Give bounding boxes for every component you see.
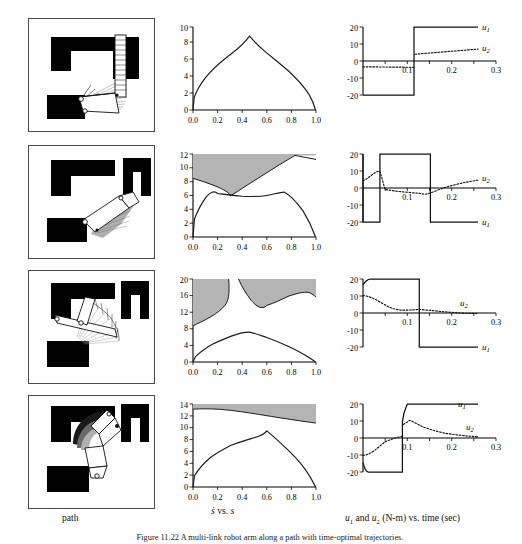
- svg-text:-10: -10: [347, 202, 358, 211]
- svg-text:10: 10: [180, 163, 188, 172]
- controls-plot-row-3: 2010 0-10 -20 0.10.20.3: [336, 270, 511, 388]
- sdot-plot-row-3: 04 812 1620 0.00.2 0.4: [166, 270, 326, 388]
- svg-text:6: 6: [184, 55, 188, 64]
- svg-text:4: 4: [184, 459, 188, 468]
- svg-text:u1: u1: [482, 217, 490, 228]
- figure-row-4: 02 46 810 1214: [0, 395, 522, 520]
- svg-text:0.0: 0.0: [188, 368, 198, 377]
- svg-text:6: 6: [184, 447, 188, 456]
- svg-text:0.0: 0.0: [188, 243, 198, 252]
- path-panel-row-1: [28, 18, 155, 132]
- svg-text:u1: u1: [482, 342, 490, 353]
- svg-text:0.2: 0.2: [447, 66, 457, 75]
- svg-text:0: 0: [184, 106, 188, 115]
- svg-text:0.6: 0.6: [262, 116, 272, 125]
- sdot-plot-row-2: 02 46 810 12: [166, 145, 326, 263]
- svg-text:0.2: 0.2: [212, 368, 222, 377]
- svg-text:0.3: 0.3: [491, 66, 501, 75]
- svg-text:-20: -20: [347, 469, 358, 478]
- svg-text:0.1: 0.1: [402, 443, 412, 452]
- svg-text:1.0: 1.0: [311, 368, 321, 377]
- svg-text:2: 2: [184, 219, 188, 228]
- sdot-plot-row-1: 02 46 810 0.00.2 0.40.: [166, 18, 326, 136]
- svg-text:0.8: 0.8: [286, 368, 296, 377]
- svg-text:0.6: 0.6: [262, 243, 272, 252]
- svg-text:-10: -10: [347, 327, 358, 336]
- controls-plot-row-1: 2010 0-10 -20 0.10.20.3: [336, 18, 511, 136]
- svg-text:0.4: 0.4: [237, 493, 247, 502]
- svg-text:0: 0: [354, 185, 358, 194]
- svg-text:1.0: 1.0: [311, 493, 321, 502]
- column-caption-sdot: ṡ vs. s: [211, 505, 234, 516]
- svg-text:20: 20: [350, 401, 358, 410]
- svg-text:u1: u1: [482, 22, 490, 33]
- path-panel-row-3: [28, 270, 155, 384]
- svg-text:0.3: 0.3: [491, 318, 501, 327]
- column-caption-controls: u1 and u2 (N-m) vs. time (sec): [345, 512, 460, 525]
- svg-text:0.3: 0.3: [491, 193, 501, 202]
- column-caption-path: path: [62, 512, 79, 523]
- svg-text:2: 2: [184, 471, 188, 480]
- figure-row-1: 02 46 810 0.00.2 0.40.: [0, 18, 522, 143]
- svg-text:4: 4: [184, 341, 188, 350]
- svg-text:1.0: 1.0: [311, 116, 321, 125]
- svg-text:0.0: 0.0: [188, 493, 198, 502]
- sdot-plot-row-4: 02 46 810 1214: [166, 395, 326, 513]
- svg-text:4: 4: [184, 205, 188, 214]
- svg-text:10: 10: [350, 168, 358, 177]
- svg-text:0: 0: [184, 483, 188, 492]
- svg-text:0.4: 0.4: [237, 243, 247, 252]
- svg-text:0: 0: [354, 435, 358, 444]
- svg-text:2: 2: [184, 89, 188, 98]
- svg-text:-10: -10: [347, 75, 358, 84]
- svg-text:-10: -10: [347, 452, 358, 461]
- svg-text:8: 8: [184, 177, 188, 186]
- svg-text:8: 8: [184, 435, 188, 444]
- svg-text:0: 0: [354, 310, 358, 319]
- svg-text:0.6: 0.6: [262, 493, 272, 502]
- svg-text:0.2: 0.2: [447, 318, 457, 327]
- svg-text:10: 10: [180, 24, 188, 33]
- svg-text:10: 10: [180, 423, 188, 432]
- path-panel-row-2: [28, 145, 155, 259]
- svg-text:0: 0: [184, 233, 188, 242]
- svg-text:1.0: 1.0: [311, 243, 321, 252]
- svg-text:0.1: 0.1: [402, 193, 412, 202]
- svg-text:12: 12: [180, 412, 188, 421]
- svg-text:0.8: 0.8: [286, 116, 296, 125]
- svg-text:0.4: 0.4: [237, 368, 247, 377]
- svg-text:4: 4: [184, 72, 188, 81]
- svg-text:20: 20: [180, 276, 188, 285]
- figure-row-3: 04 812 1620 0.00.2 0.4: [0, 270, 522, 395]
- svg-text:20: 20: [350, 24, 358, 33]
- svg-text:20: 20: [350, 276, 358, 285]
- controls-plot-row-4: 2010 0-10 -20 0.10.20.3: [336, 395, 511, 513]
- svg-text:0.0: 0.0: [188, 116, 198, 125]
- svg-text:0: 0: [184, 358, 188, 367]
- svg-text:0.2: 0.2: [447, 193, 457, 202]
- svg-text:u1: u1: [458, 399, 466, 410]
- svg-text:0.2: 0.2: [212, 116, 222, 125]
- svg-text:0.1: 0.1: [402, 318, 412, 327]
- svg-text:20: 20: [350, 151, 358, 160]
- svg-text:0.6: 0.6: [262, 368, 272, 377]
- svg-text:12: 12: [180, 151, 188, 160]
- svg-text:0.4: 0.4: [237, 116, 247, 125]
- svg-text:10: 10: [350, 41, 358, 50]
- svg-text:0.8: 0.8: [286, 243, 296, 252]
- svg-text:-20: -20: [347, 219, 358, 228]
- svg-text:0.2: 0.2: [447, 443, 457, 452]
- svg-text:0.8: 0.8: [286, 493, 296, 502]
- svg-text:14: 14: [180, 401, 188, 410]
- controls-plot-row-2: 2010 0-10 -20 0.10.20.3: [336, 145, 511, 263]
- svg-text:10: 10: [350, 293, 358, 302]
- path-panel-row-4: [28, 395, 155, 509]
- svg-text:u2: u2: [460, 298, 469, 309]
- svg-text:12: 12: [180, 308, 188, 317]
- svg-text:u2: u2: [466, 422, 475, 433]
- svg-text:u2: u2: [482, 173, 491, 184]
- svg-text:16: 16: [180, 291, 188, 300]
- svg-text:6: 6: [184, 191, 188, 200]
- svg-text:8: 8: [184, 38, 188, 47]
